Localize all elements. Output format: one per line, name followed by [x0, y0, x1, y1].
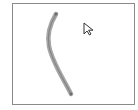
drawing-canvas[interactable]: [12, 3, 135, 105]
drawing-stage: [0, 0, 138, 110]
arrow-pointer-icon: [83, 22, 95, 36]
